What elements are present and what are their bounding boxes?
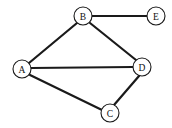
edges-group (29, 16, 147, 110)
edge-a-c (30, 75, 102, 110)
node-e: E (147, 7, 165, 25)
node-a: A (13, 60, 31, 78)
edge-c-d (114, 76, 139, 105)
graph-canvas: A B C D E (0, 0, 172, 128)
node-d: D (133, 58, 151, 76)
edge-a-d (31, 67, 133, 68)
node-e-label: E (153, 12, 159, 22)
node-b: B (74, 7, 92, 25)
node-b-label: B (80, 12, 86, 22)
node-c-label: C (107, 109, 113, 119)
node-d-label: D (139, 63, 146, 73)
edge-a-b (29, 23, 77, 63)
edge-b-d (90, 23, 136, 60)
node-a-label: A (19, 65, 26, 75)
graph-diagram: A B C D E (0, 0, 172, 128)
node-c: C (101, 104, 119, 122)
